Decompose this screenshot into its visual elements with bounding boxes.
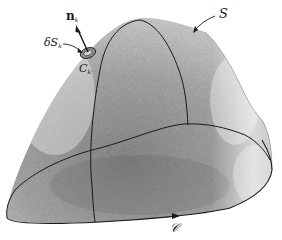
surface-leader-line <box>195 16 215 30</box>
surface-label: S <box>219 7 228 20</box>
normal-vector-arrow-icon <box>76 25 89 52</box>
stokes-surface-diagram <box>0 0 282 240</box>
boundary-curve-label: 𝒞 <box>170 222 179 234</box>
normal-vector-label-main: n <box>66 9 75 23</box>
element-boundary-label: Ck <box>79 63 91 75</box>
normal-vector-label-sub: k <box>75 16 79 23</box>
normal-vector-label: nk <box>66 10 78 23</box>
surface-element-label-main: δS <box>44 36 58 49</box>
surface-element-label-sub: k <box>58 42 62 49</box>
surface-element-label: δSk <box>44 37 62 49</box>
element-boundary-label-sub: k <box>87 68 91 75</box>
